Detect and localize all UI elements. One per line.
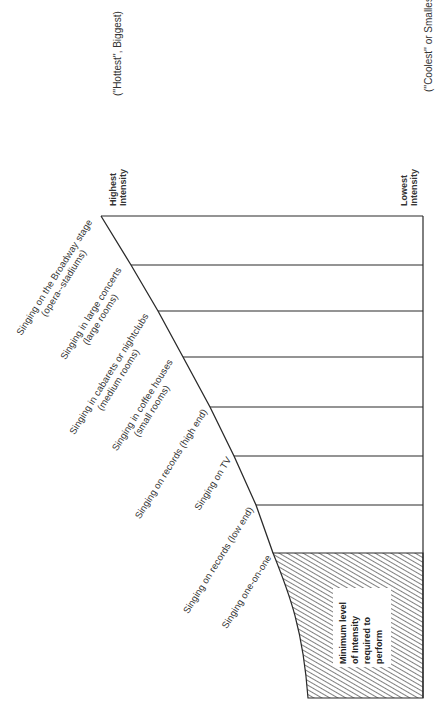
intensity-boundary-line <box>101 216 273 553</box>
level-lines <box>101 216 423 505</box>
coolest-note: (''Coolest'' or Smallest) <box>423 0 434 92</box>
highest-intensity-label: Highest Intensity <box>108 169 128 206</box>
lowest-intensity-label: Lowest Intensity <box>399 169 419 206</box>
minimum-level-label: Minimum level of Intensity required to p… <box>337 602 385 664</box>
hottest-note: (''Hottest'', Biggest) <box>112 11 123 96</box>
